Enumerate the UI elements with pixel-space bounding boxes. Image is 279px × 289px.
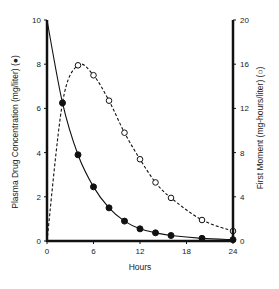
- first-moment-point: [75, 63, 81, 69]
- concentration-point: [122, 218, 128, 224]
- right-y-tick-label: 8: [240, 149, 245, 158]
- concentration-point: [153, 230, 159, 236]
- right-y-tick-label: 20: [240, 16, 249, 25]
- first-moment-point: [153, 180, 159, 186]
- right-y-tick-label: 4: [240, 193, 245, 202]
- concentration-point: [137, 226, 143, 232]
- first-moment-point: [199, 217, 205, 223]
- first-moment-point: [168, 195, 174, 201]
- left-y-tick-label: 10: [32, 16, 41, 25]
- first-moment-curve: [47, 64, 233, 241]
- first-moment-point: [106, 98, 112, 104]
- concentration-point: [91, 184, 97, 190]
- left-y-axis-title: Plasma Drug Concentration (mg/liter) (●): [10, 55, 20, 209]
- right-y-axis-title: First Moment (mg-hours/liter) (○): [255, 66, 265, 189]
- first-moment-point: [91, 72, 97, 78]
- x-tick-label: 24: [229, 247, 238, 256]
- first-moment-point: [122, 130, 128, 136]
- ticks-layer: 061218240246810048121620: [32, 16, 249, 256]
- series-layer: [47, 20, 236, 243]
- chart: 061218240246810048121620 Hours Plasma Dr…: [0, 0, 279, 289]
- left-y-tick-label: 2: [37, 193, 42, 202]
- x-tick-label: 18: [182, 247, 191, 256]
- concentration-curve: [47, 20, 233, 240]
- x-tick-label: 0: [45, 247, 50, 256]
- concentration-point: [106, 205, 112, 211]
- left-y-tick-label: 4: [37, 149, 42, 158]
- right-y-tick-label: 16: [240, 60, 249, 69]
- x-tick-label: 12: [136, 247, 145, 256]
- first-moment-point: [137, 156, 143, 162]
- concentration-point: [75, 152, 81, 158]
- axes-layer: [47, 20, 234, 242]
- x-tick-label: 6: [91, 247, 96, 256]
- x-axis-title: Hours: [129, 262, 152, 272]
- right-y-tick-label: 12: [240, 104, 249, 113]
- left-y-tick-label: 6: [37, 104, 42, 113]
- left-y-tick-label: 8: [37, 60, 42, 69]
- left-y-tick-label: 0: [37, 237, 42, 246]
- concentration-point: [168, 232, 174, 238]
- right-y-tick-label: 0: [240, 237, 245, 246]
